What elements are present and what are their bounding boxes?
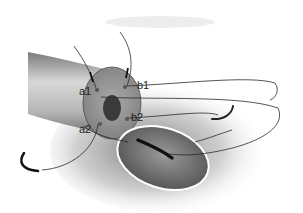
label-b2: b2 [131,112,143,123]
needle-left [21,153,38,171]
anastomosis-illustration: a1 b1 a2 b2 [0,0,303,213]
lumen [103,95,121,121]
label-b1: b1 [137,80,149,91]
illustration-svg [0,0,303,213]
label-a1: a1 [79,86,91,97]
label-a2: a2 [79,124,91,135]
